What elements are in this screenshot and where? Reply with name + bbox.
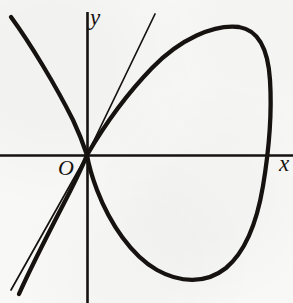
curve-upper-branch xyxy=(11,17,87,155)
figure-canvas: y x O xyxy=(0,0,293,303)
origin-label: O xyxy=(58,157,74,179)
y-axis-label: y xyxy=(90,6,100,29)
tangent-line-upper xyxy=(87,14,155,155)
curve-lower-branch xyxy=(19,155,87,294)
curve-plot-svg xyxy=(0,0,293,303)
axes-group xyxy=(0,12,293,303)
x-axis-label: x xyxy=(279,152,289,175)
curve-loop xyxy=(87,27,271,280)
